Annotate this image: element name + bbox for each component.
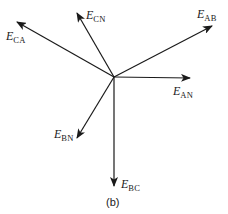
phasor-arrow-e-bn — [77, 77, 114, 138]
phasor-arrow-e-an — [114, 77, 190, 78]
phasor-arrow-e-ab — [114, 26, 212, 77]
label-e-ab: EAB — [197, 8, 217, 20]
label-e-cn: ECN — [86, 9, 106, 21]
label-e-ca: ECA — [6, 30, 26, 42]
figure-caption: (b) — [106, 197, 119, 208]
label-e-an: EAN — [173, 85, 193, 97]
phasor-diagram — [0, 0, 228, 214]
label-e-bc: EBC — [121, 178, 140, 190]
phasor-arrow-e-ca — [17, 22, 114, 77]
label-e-bn: EBN — [54, 128, 74, 140]
